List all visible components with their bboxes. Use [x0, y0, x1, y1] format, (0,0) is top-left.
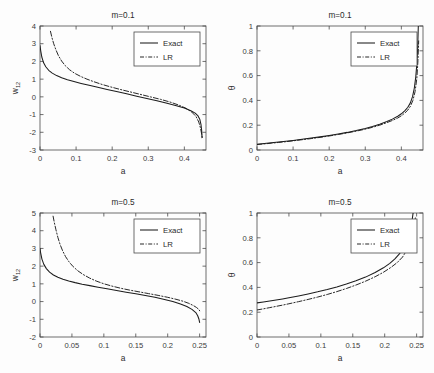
x-tick-label: 0.3 — [143, 154, 154, 163]
x-tick-label: 0 — [255, 341, 259, 350]
x-tick-label: 0.2 — [324, 154, 335, 163]
y-tick-label: 1 — [32, 75, 36, 84]
y-tick-label: -1 — [29, 315, 36, 324]
y-tick-label: 0.8 — [242, 47, 253, 56]
x-axis-label: a — [121, 166, 126, 176]
y-axis-label: θ — [227, 85, 237, 90]
y-tick-label: 0.4 — [242, 96, 253, 105]
panel-bottom-right: m=0.500.050.10.150.20.2500.20.40.60.81aθ… — [217, 187, 434, 373]
y-tick-label: 5 — [32, 209, 36, 218]
y-tick-label: 0.6 — [242, 258, 253, 267]
y-tick-label: -3 — [29, 146, 36, 155]
legend: ExactLR — [134, 219, 200, 253]
y-tick-label: 1 — [249, 209, 253, 218]
x-tick-label: 0.25 — [192, 341, 207, 350]
x-tick-label: 0.15 — [128, 341, 143, 350]
panel-title: m=0.1 — [112, 11, 135, 20]
legend-label-exact: Exact — [380, 226, 400, 235]
y-tick-label: 4 — [32, 226, 36, 235]
figure-canvas: m=0.100.10.20.30.4-3-2-101234aw12ExactLR… — [0, 0, 434, 373]
x-tick-label: 0 — [38, 341, 42, 350]
plot-bottom-right: m=0.500.050.10.150.20.2500.20.40.60.81aθ… — [217, 187, 434, 373]
y-axis-label: w12 — [10, 82, 21, 95]
legend-label-exact: Exact — [163, 39, 183, 48]
panel-bottom-left: m=0.500.050.10.150.20.25-2-1012345aw12Ex… — [0, 187, 217, 373]
x-tick-label: 0.2 — [107, 154, 118, 163]
x-tick-label: 0.4 — [179, 154, 190, 163]
curve-exact — [40, 248, 200, 322]
svg-text:w12: w12 — [10, 82, 21, 95]
plot-top-right: m=0.100.10.20.30.400.20.40.60.81aθExactL… — [217, 0, 434, 186]
y-tick-label: 0 — [32, 297, 36, 306]
panel-title: m=0.5 — [112, 198, 135, 207]
svg-text:w12: w12 — [10, 269, 21, 282]
y-tick-label: 0.4 — [242, 283, 253, 292]
y-tick-label: 0.2 — [242, 121, 253, 130]
y-tick-label: -1 — [29, 110, 36, 119]
x-axis-label: a — [338, 166, 343, 176]
plot-top-left: m=0.100.10.20.30.4-3-2-101234aw12ExactLR — [0, 0, 217, 186]
x-axis-label: a — [121, 353, 126, 363]
svg-text:θ: θ — [227, 85, 237, 90]
y-axis-label: θ — [227, 272, 237, 277]
y-tick-label: 0.8 — [242, 234, 253, 243]
legend-label-lr: LR — [163, 53, 173, 62]
x-tick-label: 0.4 — [396, 154, 407, 163]
x-tick-label: 0.25 — [409, 341, 424, 350]
y-axis-label: w12 — [10, 269, 21, 282]
panel-top-left: m=0.100.10.20.30.4-3-2-101234aw12ExactLR — [0, 0, 217, 186]
y-tick-label: 0.2 — [242, 308, 253, 317]
x-tick-label: 0.05 — [65, 341, 80, 350]
x-tick-label: 0.2 — [379, 341, 390, 350]
y-tick-label: 0 — [249, 333, 253, 342]
y-tick-label: 2 — [32, 57, 36, 66]
y-tick-label: 1 — [32, 280, 36, 289]
x-tick-label: 0 — [255, 154, 259, 163]
legend-label-exact: Exact — [163, 226, 183, 235]
y-tick-label: 3 — [32, 244, 36, 253]
legend-label-lr: LR — [380, 53, 390, 62]
y-tick-label: 0 — [32, 93, 36, 102]
x-axis-label: a — [338, 353, 343, 363]
legend: ExactLR — [351, 219, 417, 253]
legend: ExactLR — [351, 32, 417, 66]
y-tick-label: 0.6 — [242, 71, 253, 80]
legend-label-lr: LR — [380, 240, 390, 249]
legend-label-lr: LR — [163, 240, 173, 249]
plot-bottom-left: m=0.500.050.10.150.20.25-2-1012345aw12Ex… — [0, 187, 217, 373]
y-tick-label: 1 — [249, 22, 253, 31]
panel-title: m=0.5 — [329, 198, 352, 207]
x-tick-label: 0.1 — [99, 341, 110, 350]
panel-top-right: m=0.100.10.20.30.400.20.40.60.81aθExactL… — [217, 0, 434, 186]
y-tick-label: -2 — [29, 333, 36, 342]
x-tick-label: 0.1 — [71, 154, 82, 163]
x-tick-label: 0.2 — [162, 341, 173, 350]
legend-label-exact: Exact — [380, 39, 400, 48]
x-tick-label: 0.05 — [282, 341, 297, 350]
x-tick-label: 0.3 — [360, 154, 371, 163]
legend: ExactLR — [134, 32, 200, 66]
x-tick-label: 0.15 — [345, 341, 360, 350]
x-tick-label: 0.1 — [288, 154, 299, 163]
y-tick-label: -2 — [29, 128, 36, 137]
y-tick-label: 0 — [249, 146, 253, 155]
x-tick-label: 0 — [38, 154, 42, 163]
x-tick-label: 0.1 — [316, 341, 327, 350]
svg-text:θ: θ — [227, 272, 237, 277]
panel-title: m=0.1 — [329, 11, 352, 20]
y-tick-label: 4 — [32, 22, 36, 31]
y-tick-label: 3 — [32, 39, 36, 48]
y-tick-label: 2 — [32, 262, 36, 271]
